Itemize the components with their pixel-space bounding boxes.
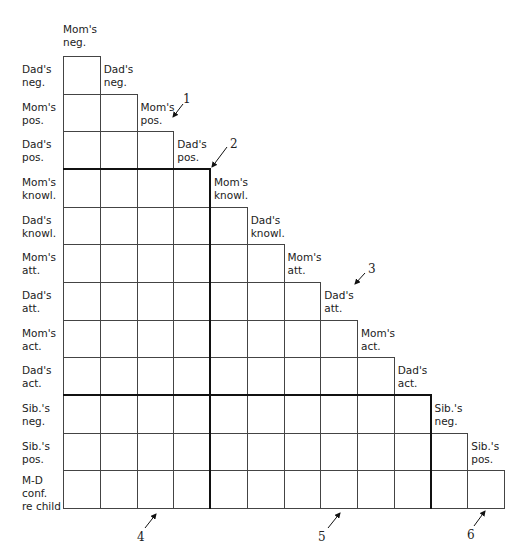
arrow-1-icon xyxy=(173,104,183,117)
arrow-4-icon xyxy=(145,514,156,528)
correlation-matrix-diagram: Dad's neg.Mom's pos.Dad's pos.Mom's know… xyxy=(0,0,519,556)
annotation-arrows xyxy=(0,0,519,556)
arrow-3-icon xyxy=(355,273,365,284)
arrow-2-icon xyxy=(212,147,227,167)
arrow-6-icon xyxy=(474,511,485,526)
arrow-5-icon xyxy=(328,513,340,528)
